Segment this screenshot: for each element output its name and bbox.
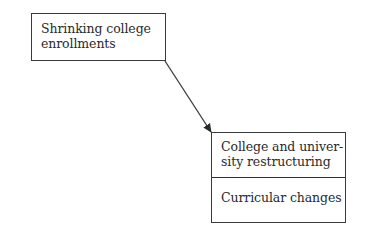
node-label: Shrinking college enrollments — [41, 21, 165, 51]
section-label-line-1: Curricular changes — [221, 190, 345, 205]
node-label-line-2: enrollments — [41, 36, 165, 51]
node-section-restructuring: College and univer- sity restructuring — [212, 133, 345, 178]
arrow-line — [165, 61, 211, 132]
node-section-curricular-changes: Curricular changes — [212, 178, 345, 205]
node-shrinking-enrollments: Shrinking college enrollments — [31, 13, 166, 61]
section-label-line-1: College and univer- — [221, 139, 345, 154]
node-restructuring-stack: College and univer- sity restructuring C… — [211, 132, 346, 223]
section-label-line-2: sity restructuring — [221, 154, 345, 169]
node-label-line-1: Shrinking college — [41, 21, 165, 36]
